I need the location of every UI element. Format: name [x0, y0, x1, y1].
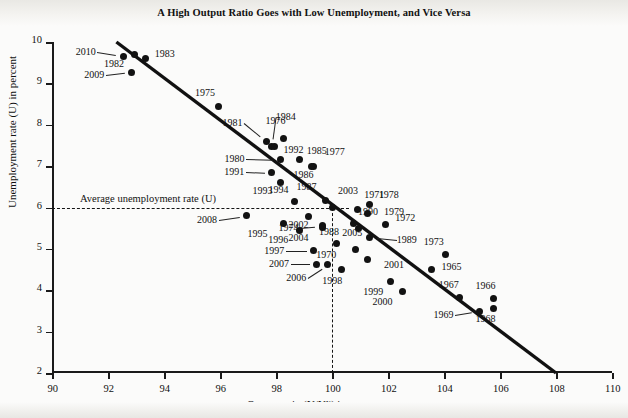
data-point-label: 1973 [424, 237, 444, 247]
label-leader-line [246, 159, 273, 161]
data-point[interactable] [490, 305, 497, 312]
data-point[interactable] [355, 225, 362, 232]
x-tick: 96 [220, 373, 222, 379]
data-point[interactable] [364, 210, 371, 217]
label-leader-line [286, 251, 307, 252]
data-point-label: 1981 [223, 118, 243, 128]
data-point[interactable] [382, 221, 389, 228]
data-point[interactable] [456, 294, 463, 301]
y-tick-label: 6 [37, 200, 42, 211]
x-tick: 110 [612, 373, 614, 379]
data-point-label: 1992 [284, 145, 304, 155]
data-point-label: 2007 [269, 259, 289, 269]
x-tick-label: 94 [160, 383, 171, 394]
y-tick: 3 [46, 332, 52, 334]
data-point[interactable] [271, 143, 278, 150]
data-point-label: 2009 [84, 70, 104, 80]
x-tick: 104 [444, 373, 446, 379]
data-point[interactable] [490, 295, 497, 302]
data-point[interactable] [280, 220, 287, 227]
data-point[interactable] [364, 256, 371, 263]
data-point[interactable] [128, 69, 135, 76]
data-point-label: 1965 [441, 262, 461, 272]
data-point-label: 2000 [372, 297, 392, 307]
y-tick: 10 [46, 42, 52, 44]
data-point[interactable] [387, 278, 394, 285]
data-point-label: 1967 [439, 280, 459, 290]
data-point-label: 2003 [338, 186, 358, 196]
data-point[interactable] [313, 261, 320, 268]
data-point[interactable] [142, 55, 149, 62]
data-point-label: 1975 [195, 88, 215, 98]
data-point[interactable] [215, 103, 222, 110]
data-point[interactable] [131, 51, 138, 58]
data-point-label: 1986 [293, 170, 313, 180]
x-tick: 100 [332, 373, 334, 379]
data-point-label: 1983 [155, 49, 175, 59]
data-point-label: 1994 [269, 185, 289, 195]
x-tick-label: 106 [493, 383, 509, 394]
data-point-label: 2010 [76, 47, 96, 57]
x-tick-label: 100 [325, 383, 341, 394]
data-point[interactable] [333, 240, 340, 247]
data-point-label: 1966 [475, 281, 495, 291]
data-point-label: 1969 [433, 310, 453, 320]
x-tick: 98 [276, 373, 278, 379]
x-tick-label: 104 [437, 383, 453, 394]
data-point[interactable] [296, 156, 303, 163]
data-point[interactable] [268, 169, 275, 176]
y-tick: 9 [46, 83, 52, 85]
data-point[interactable] [442, 251, 449, 258]
data-point-label: 1988 [319, 227, 339, 237]
label-leader-line [219, 217, 240, 221]
data-point-label: 1996 [268, 235, 288, 245]
y-tick: 7 [46, 166, 52, 168]
data-point-label: 1995 [247, 229, 267, 239]
data-point[interactable] [324, 261, 331, 268]
x-tick-label: 110 [605, 383, 620, 394]
data-point-label: 1982 [104, 59, 124, 69]
y-axis-label-text: Unemployment rate (U) in percent [6, 56, 18, 208]
x-tick-label: 96 [216, 383, 227, 394]
y-tick-label: 9 [37, 75, 42, 86]
data-point[interactable] [243, 212, 250, 219]
y-tick-label: 10 [32, 34, 43, 45]
label-leader-line [377, 238, 397, 241]
data-point[interactable] [263, 138, 270, 145]
y-tick: 5 [46, 249, 52, 251]
x-axis-label: Output ratio (Y/Yᴺ) in percent [0, 398, 628, 410]
data-point-label: 1972 [395, 213, 415, 223]
y-tick-label: 2 [37, 365, 42, 376]
label-leader-line [97, 52, 116, 56]
data-point[interactable] [428, 266, 435, 273]
y-axis-label: Unemployment rate (U) in percent [6, 56, 18, 208]
data-point[interactable] [291, 198, 298, 205]
x-tick-label: 108 [549, 383, 565, 394]
data-point-label: 1978 [379, 190, 399, 200]
data-point[interactable] [399, 288, 406, 295]
data-point-label: 1980 [225, 154, 245, 164]
y-tick: 8 [46, 125, 52, 127]
x-tick: 90 [52, 373, 54, 379]
x-axis-label-text: Output ratio (Y/Yᴺ) in percent [247, 398, 381, 410]
average-unemployment-label: Average unemployment rate (U) [80, 193, 216, 204]
data-point-label: 1997 [264, 246, 284, 256]
data-point[interactable] [280, 135, 287, 142]
data-point-label: 1987 [296, 182, 316, 192]
label-leader-line [246, 172, 265, 174]
plot-area: 2345678910 9092949698100102104106108110 … [52, 42, 612, 373]
y-tick: 4 [46, 290, 52, 292]
data-point[interactable] [366, 234, 373, 241]
data-point[interactable] [338, 266, 345, 273]
x-tick-label: 92 [104, 383, 115, 394]
data-point-label: 1968 [475, 314, 495, 324]
x-tick-label: 98 [272, 383, 283, 394]
y-tick-label: 5 [37, 241, 42, 252]
x-tick: 102 [388, 373, 390, 379]
x-tick-label: 102 [381, 383, 397, 394]
data-point[interactable] [322, 197, 329, 204]
data-point[interactable] [277, 156, 284, 163]
data-point[interactable] [352, 246, 359, 253]
data-point[interactable] [329, 204, 336, 211]
label-leader-line [244, 123, 261, 137]
